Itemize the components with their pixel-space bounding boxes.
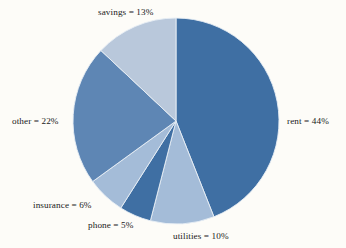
slice-label-rent: rent = 44%	[287, 117, 329, 126]
pie-chart-figure: savings = 13% rent = 44% other = 22% ins…	[0, 0, 346, 248]
slice-label-insurance: insurance = 6%	[33, 201, 92, 210]
slice-label-savings: savings = 13%	[98, 8, 153, 17]
slice-label-other: other = 22%	[12, 117, 59, 126]
pie-slices-group	[73, 18, 279, 224]
slice-label-phone: phone = 5%	[88, 221, 133, 230]
slice-label-utilities: utilities = 10%	[173, 232, 229, 241]
